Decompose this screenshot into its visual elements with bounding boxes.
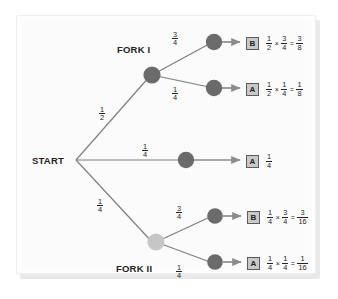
branch-prob-start-middle: 1 4 bbox=[142, 141, 148, 159]
fraction-denominator: 4 bbox=[172, 94, 178, 102]
fork1-label: FORK I bbox=[117, 44, 150, 55]
node-leaf-2 bbox=[206, 80, 222, 96]
fraction-denominator: 4 bbox=[172, 39, 178, 47]
equals-operator: = bbox=[290, 86, 294, 93]
outcome-label-box: A bbox=[247, 257, 260, 270]
fraction-denominator: 8 bbox=[296, 90, 302, 98]
edge-fork1-leaf2 bbox=[152, 75, 209, 87]
branch-prob-fork2-lower: 1 4 bbox=[176, 262, 182, 280]
outcome-label-box: A bbox=[246, 83, 259, 96]
fraction-denominator: 2 bbox=[266, 44, 272, 52]
outcome-label-box: B bbox=[246, 37, 259, 50]
branch-prob-fork1-lower: 1 4 bbox=[172, 84, 178, 102]
outcome-expression: 1 2 × 3 4 = 3 8 bbox=[266, 35, 303, 51]
branch-prob-fork2-upper: 3 4 bbox=[176, 203, 182, 221]
edge-fork2-leaf5 bbox=[156, 242, 210, 262]
outcome-row: A 1 4 bbox=[246, 153, 272, 169]
edge-start-fork2 bbox=[76, 160, 153, 243]
outcome-expression: 1 4 × 3 4 = 3 16 bbox=[267, 209, 308, 225]
node-fork1 bbox=[143, 66, 160, 83]
fraction-denominator: 8 bbox=[296, 44, 302, 52]
outcome-expression: 1 4 × 1 4 = 1 16 bbox=[267, 255, 308, 271]
fraction-denominator: 2 bbox=[266, 90, 272, 98]
equals-operator: = bbox=[290, 40, 294, 47]
fraction-denominator: 4 bbox=[142, 151, 148, 159]
times-operator: × bbox=[275, 40, 279, 47]
times-operator: × bbox=[275, 86, 279, 93]
node-leaf-5 bbox=[207, 254, 223, 270]
node-leaf-1 bbox=[206, 34, 222, 50]
outcome-expression: 1 2 × 1 4 = 1 8 bbox=[266, 81, 303, 97]
equals-operator: = bbox=[291, 214, 295, 221]
fraction-denominator: 4 bbox=[266, 162, 272, 170]
probability-tree-figure: START FORK I FORK II 1 2 1 4 1 4 3 4 1 4 bbox=[0, 0, 338, 299]
outcome-label-box: A bbox=[246, 155, 259, 168]
branch-prob-start-fork1: 1 2 bbox=[99, 104, 105, 122]
fraction-denominator: 4 bbox=[267, 218, 273, 226]
edge-start-fork1 bbox=[76, 76, 150, 160]
fraction-denominator: 4 bbox=[267, 264, 273, 272]
times-operator: × bbox=[276, 260, 280, 267]
outcome-row: A 1 2 × 1 4 = 1 8 bbox=[246, 81, 303, 97]
fraction-denominator: 4 bbox=[97, 206, 103, 214]
fraction-denominator: 4 bbox=[282, 264, 288, 272]
fraction-denominator: 4 bbox=[176, 272, 182, 280]
fraction-denominator: 4 bbox=[282, 218, 288, 226]
fraction-denominator: 4 bbox=[176, 213, 182, 221]
fork2-label: FORK II bbox=[116, 263, 152, 274]
fraction-denominator: 4 bbox=[281, 90, 287, 98]
outcome-label-box: B bbox=[247, 211, 260, 224]
outcome-row: B 1 2 × 3 4 = 3 8 bbox=[246, 35, 303, 51]
start-label: START bbox=[32, 155, 64, 166]
edge-fork2-leaf4 bbox=[156, 217, 210, 242]
branch-prob-fork1-upper: 3 4 bbox=[172, 29, 178, 47]
outcome-row: B 1 4 × 3 4 = 3 16 bbox=[247, 209, 308, 225]
equals-operator: = bbox=[291, 260, 295, 267]
node-leaf-4 bbox=[207, 208, 223, 224]
node-middle bbox=[178, 152, 194, 168]
fraction-denominator: 16 bbox=[297, 264, 307, 272]
branch-prob-start-fork2: 1 4 bbox=[97, 196, 103, 214]
edge-fork1-leaf1 bbox=[152, 44, 209, 75]
outcome-row: A 1 4 × 1 4 = 1 16 bbox=[247, 255, 308, 271]
fraction-denominator: 4 bbox=[281, 44, 287, 52]
outcome-expression: 1 4 bbox=[266, 153, 272, 169]
fraction-denominator: 2 bbox=[99, 114, 105, 122]
node-fork2 bbox=[147, 233, 164, 250]
fraction-denominator: 16 bbox=[297, 218, 307, 226]
times-operator: × bbox=[276, 214, 280, 221]
